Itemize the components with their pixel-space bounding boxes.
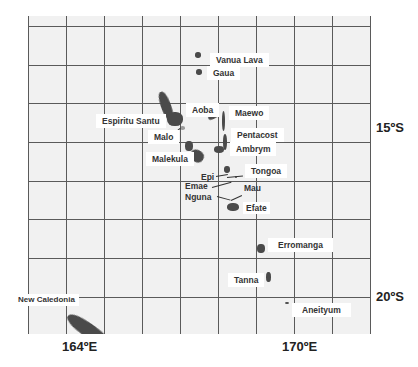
- island-ambrym: [214, 146, 224, 153]
- label-efate: Efate: [243, 202, 270, 214]
- grid-line: [294, 16, 295, 334]
- label-tongoa: Tongoa: [245, 164, 287, 178]
- label-malo: Malo: [148, 130, 179, 144]
- island-new-caledonia: [64, 310, 113, 334]
- grid-line: [28, 65, 371, 66]
- label-gaua: Gaua: [207, 66, 240, 80]
- island-espiritu-santo-south: [167, 112, 183, 126]
- grid-line: [104, 16, 105, 334]
- grid-line: [142, 16, 143, 334]
- latitude-label-15s: 15ºS: [376, 120, 404, 135]
- grid-line: [28, 258, 371, 259]
- label-maewo: Maewo: [229, 106, 269, 120]
- grid-line: [66, 16, 67, 334]
- island-vanua-lava: [195, 52, 201, 58]
- label-emae: Emae: [184, 181, 209, 191]
- island-tanna: [266, 272, 271, 282]
- island-gaua: [196, 69, 202, 75]
- label-erromanga: Erromanga: [268, 238, 333, 252]
- grid-line: [180, 16, 181, 334]
- label-pentacost: Pentacost: [231, 128, 284, 142]
- island-epi: [224, 166, 230, 173]
- grid-line: [332, 16, 333, 334]
- label-mau: Mau: [243, 183, 262, 193]
- grid-line: [370, 16, 371, 334]
- label-vanua-lava: Vanua Lava: [210, 53, 269, 67]
- label-espiritu-santu: Espiritu Santu: [96, 114, 166, 128]
- label-aoba: Aoba: [186, 103, 219, 117]
- leader-line-mau: [231, 195, 242, 201]
- island-maewo: [222, 111, 225, 131]
- label-nguna: Nguna: [184, 192, 212, 202]
- leader-line-emae: [212, 182, 232, 188]
- longitude-label-170e: 170ºE: [282, 339, 317, 354]
- grid-line: [28, 26, 371, 27]
- grid-line: [28, 16, 29, 334]
- label-malekula: Malekula: [146, 152, 194, 166]
- island-erromanga: [257, 244, 265, 253]
- latitude-label-20s: 20ºS: [376, 289, 404, 304]
- island-efate: [227, 203, 239, 211]
- island-aneityum: [285, 302, 289, 304]
- label-aneityum: Aneityum: [292, 303, 351, 317]
- grid-line: [28, 219, 371, 220]
- island-malo: [180, 126, 185, 130]
- label-new-caledonia: New Caledonia: [14, 294, 79, 306]
- grid-line: [28, 297, 371, 298]
- label-ambrym: Ambrym: [230, 142, 276, 156]
- label-tanna: Tanna: [228, 273, 264, 287]
- grid-line: [28, 142, 371, 143]
- longitude-label-164e: 164ºE: [62, 339, 97, 354]
